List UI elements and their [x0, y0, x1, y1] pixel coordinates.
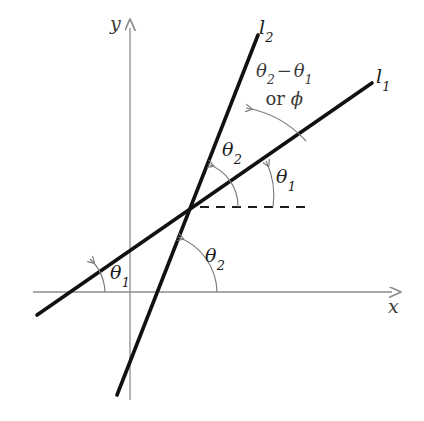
angle-label-theta1-xaxis: θ1 — [110, 263, 130, 287]
line-label-l1: l1 — [376, 67, 390, 91]
lines-group — [37, 35, 372, 395]
angle-label-phi-expression: θ2−θ1 or ϕ — [256, 62, 312, 108]
line-l2 — [117, 35, 258, 395]
phi-expression-line2: or ϕ — [256, 90, 312, 108]
arc-theta1-intersection — [266, 161, 274, 207]
angle-label-theta2-intersection: θ2 — [222, 140, 242, 164]
axes-group — [33, 28, 392, 400]
y-axis-label: y — [110, 14, 121, 33]
angle-label-theta1-intersection: θ1 — [276, 167, 296, 191]
figure-canvas — [0, 0, 424, 421]
phi-expression-line1: θ2−θ1 — [256, 62, 312, 84]
x-axis-label: x — [388, 297, 399, 316]
geometry-figure: y x l2 l1 θ1 θ2 θ1 θ2 θ2−θ1 or ϕ — [0, 0, 424, 421]
line-label-l2: l2 — [259, 18, 273, 42]
line-l1 — [37, 83, 372, 315]
angle-label-theta2-xaxis: θ2 — [205, 246, 225, 270]
